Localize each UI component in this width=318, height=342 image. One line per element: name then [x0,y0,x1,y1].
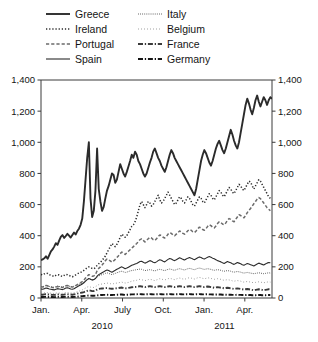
y-tick-label-right: 600 [278,199,294,210]
y-tick-label-left: 1,400 [11,74,35,85]
y-tick-label-right: 200 [278,261,294,272]
legend-item-germany[interactable]: Germany [138,51,210,66]
y-tick-label-right: 800 [278,168,294,179]
y-tick-label-right: 0 [278,292,283,303]
series-line-italy [41,268,270,287]
plot-area: 002002004004006006008008001,0001,0001,20… [0,68,318,342]
x-tick-label: July [114,304,131,315]
legend-label: Portugal [75,38,114,50]
y-tick-label-left: 200 [19,261,35,272]
legend-item-greece[interactable]: Greece [46,6,114,21]
x-year-label: 2010 [92,320,113,331]
legend-label: Ireland [75,23,107,35]
x-tick-label: Oct. [155,304,172,315]
line-chart-svg: 002002004004006006008008001,0001,0001,20… [0,68,318,342]
y-tick-label-left: 400 [19,230,35,241]
series-group [41,96,272,298]
chart-container: GreeceIrelandPortugalSpain ItalyBelgiumF… [0,0,318,342]
legend-label: Belgium [167,23,205,35]
legend-line-swatch-greece [46,8,70,20]
legend-line-swatch-belgium [138,23,162,35]
legend-label: Germany [167,53,210,65]
chart-legend: GreeceIrelandPortugalSpain ItalyBelgiumF… [0,6,318,68]
series-line-greece [41,96,272,261]
x-year-label: 2011 [214,320,234,331]
legend-item-spain[interactable]: Spain [46,51,114,66]
legend-item-italy[interactable]: Italy [138,6,210,21]
x-tick-label: Jan. [195,304,213,315]
legend-line-swatch-portugal [46,38,70,50]
legend-line-swatch-italy [138,8,162,20]
legend-item-ireland[interactable]: Ireland [46,21,114,36]
y-tick-label-right: 1,400 [278,74,302,85]
legend-line-swatch-spain [46,53,70,65]
axis-frame [41,80,272,298]
legend-item-france[interactable]: France [138,36,210,51]
y-tick-label-left: 800 [19,168,35,179]
legend-column-right: ItalyBelgiumFranceGermany [138,6,210,66]
x-tick-label: Apr. [236,304,253,315]
y-tick-label-right: 1,000 [278,137,302,148]
legend-line-swatch-germany [138,53,162,65]
legend-label: Spain [75,53,102,65]
legend-label: Italy [167,8,186,20]
x-tick-label: Jan. [32,304,50,315]
legend-label: Greece [75,8,109,20]
y-tick-label-left: 600 [19,199,35,210]
x-tick-label: Apr. [73,304,90,315]
series-line-portugal [41,198,270,288]
legend-item-belgium[interactable]: Belgium [138,21,210,36]
legend-label: France [167,38,200,50]
y-tick-label-right: 1,200 [278,106,302,117]
y-tick-label-left: 0 [30,292,35,303]
legend-line-swatch-ireland [46,23,70,35]
legend-item-portugal[interactable]: Portugal [46,36,114,51]
legend-column-left: GreeceIrelandPortugalSpain [46,6,114,66]
y-tick-label-left: 1,200 [11,106,35,117]
legend-line-swatch-france [138,38,162,50]
y-tick-label-right: 400 [278,230,294,241]
y-tick-label-left: 1,000 [11,137,35,148]
